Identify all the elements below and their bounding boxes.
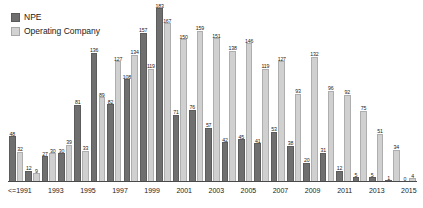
bar-operating-company[interactable]: 134	[131, 55, 138, 182]
x-tick-2001: 2001	[176, 184, 192, 200]
x-tick-blank	[224, 184, 240, 200]
bar-slot: 151	[212, 8, 220, 182]
bar-slot: 93	[294, 8, 302, 182]
bar-value-label: 32	[17, 146, 22, 152]
bar-value-label: 151	[212, 33, 220, 39]
bar-slot: 0	[401, 8, 409, 182]
bar-npe[interactable]: 42	[222, 142, 229, 182]
bar-slot: 119	[147, 8, 155, 182]
bar-operating-company[interactable]: 93	[295, 94, 302, 182]
bar-operating-company[interactable]: 33	[82, 151, 89, 182]
bar-value-label: 9	[35, 168, 38, 174]
bar-npe[interactable]: 136	[91, 53, 98, 182]
bar-operating-company[interactable]: 119	[148, 69, 155, 182]
bar-operating-company[interactable]: 89	[99, 97, 106, 182]
bar-slot: 38	[287, 8, 295, 182]
bar-slot: 138	[229, 8, 237, 182]
x-tick-blank	[321, 184, 337, 200]
bar-value-label: 53	[271, 126, 276, 132]
bar-value-label: 92	[344, 89, 349, 95]
bar-npe[interactable]: 45	[238, 139, 245, 182]
bar-value-label: 127	[278, 56, 286, 62]
bar-operating-company[interactable]: 119	[262, 69, 269, 182]
bar-slot: 132	[311, 8, 319, 182]
bar-npe[interactable]: 76	[189, 110, 196, 182]
bar-npe[interactable]: 38	[287, 146, 294, 182]
bar-value-label: 119	[261, 63, 269, 69]
x-tick-2005: 2005	[240, 184, 256, 200]
bar-npe[interactable]: 81	[74, 105, 81, 182]
bar-operating-company[interactable]: 127	[278, 61, 285, 182]
bar-operating-company[interactable]: 159	[197, 31, 204, 182]
bar-npe[interactable]: 71	[173, 115, 180, 183]
x-tick-blank	[32, 184, 48, 200]
x-tick-2013: 2013	[369, 184, 385, 200]
x-tick-2011: 2011	[337, 184, 353, 200]
x-tick-1993: 1993	[48, 184, 64, 200]
x-tick-blank	[128, 184, 144, 200]
bar-value-label: 48	[10, 131, 15, 137]
x-tick-blank	[385, 184, 401, 200]
bar-operating-company[interactable]: 151	[213, 38, 220, 182]
bar-operating-company[interactable]: 127	[115, 61, 122, 182]
x-axis-tick-labels: <=1991 1993 1995 1997 1999 2001 2003 200…	[8, 184, 417, 200]
bar-npe[interactable]: 27	[42, 156, 49, 182]
bar-slot: 53	[270, 8, 278, 182]
bar-slot: 108	[123, 8, 131, 182]
bar-value-label: 76	[190, 104, 195, 110]
bar-operating-company[interactable]: 96	[328, 91, 335, 182]
bar-npe[interactable]: 20	[303, 163, 310, 182]
bar-slot: 82	[107, 8, 115, 182]
bar-slot: 34	[392, 8, 400, 182]
bar-npe[interactable]: 41	[254, 143, 261, 182]
bar-slot: 167	[163, 8, 171, 182]
bar-npe[interactable]: 30	[58, 153, 65, 182]
bar-operating-company[interactable]: 167	[164, 23, 171, 182]
bar-value-label: 33	[83, 145, 88, 151]
bar-value-label: 146	[245, 38, 253, 44]
legend-swatch-npe	[11, 13, 20, 22]
bar-slot: 20	[303, 8, 311, 182]
bar-group: 20132	[302, 8, 318, 182]
bar-slot: 127	[114, 8, 122, 182]
bar-group: 1292	[335, 8, 351, 182]
bar-value-label: 96	[328, 85, 333, 91]
bar-value-label: 82	[108, 99, 113, 105]
bar-operating-company[interactable]: 75	[360, 111, 367, 182]
bar-value-label: 45	[239, 134, 244, 140]
bar-npe[interactable]: 82	[107, 104, 114, 182]
bar-value-label: 39	[66, 139, 71, 145]
bar-npe[interactable]: 157	[140, 33, 147, 182]
bar-npe[interactable]: 57	[205, 128, 212, 182]
bar-group: 76159	[188, 8, 204, 182]
bar-npe[interactable]: 48	[9, 136, 16, 182]
bar-operating-company[interactable]: 32	[17, 152, 24, 182]
x-tick-1995: 1995	[80, 184, 96, 200]
bar-value-label: 5	[354, 172, 357, 178]
bar-npe[interactable]: 183	[156, 8, 163, 182]
bar-npe[interactable]: 53	[271, 132, 278, 182]
bar-operating-company[interactable]: 51	[377, 134, 384, 182]
bar-operating-company[interactable]: 138	[229, 51, 236, 182]
bar-value-label: 134	[130, 49, 138, 55]
legend-item-operating-company: Operating Company	[11, 25, 100, 37]
bar-value-label: 81	[75, 99, 80, 105]
x-tick-1999: 1999	[144, 184, 160, 200]
bar-operating-company[interactable]: 34	[393, 150, 400, 182]
bar-operating-company[interactable]: 92	[344, 95, 351, 182]
bar-operating-company[interactable]: 150	[180, 39, 187, 182]
bar-operating-company[interactable]: 146	[246, 43, 253, 182]
bar-group: 575	[352, 8, 368, 182]
bar-operating-company[interactable]: 39	[66, 145, 73, 182]
bar-slot: 157	[139, 8, 147, 182]
bar-value-label: 38	[288, 140, 293, 146]
bar-value-label: 30	[50, 148, 55, 154]
legend-swatch-operating-company	[11, 27, 20, 36]
bar-slot: 5	[352, 8, 360, 182]
bar-slot: 119	[262, 8, 270, 182]
bar-operating-company[interactable]: 132	[311, 57, 318, 183]
bar-npe[interactable]: 31	[320, 153, 327, 182]
bar-npe[interactable]: 108	[124, 79, 131, 182]
bar-operating-company[interactable]: 30	[49, 153, 56, 182]
bar-value-label: 4	[411, 173, 414, 179]
